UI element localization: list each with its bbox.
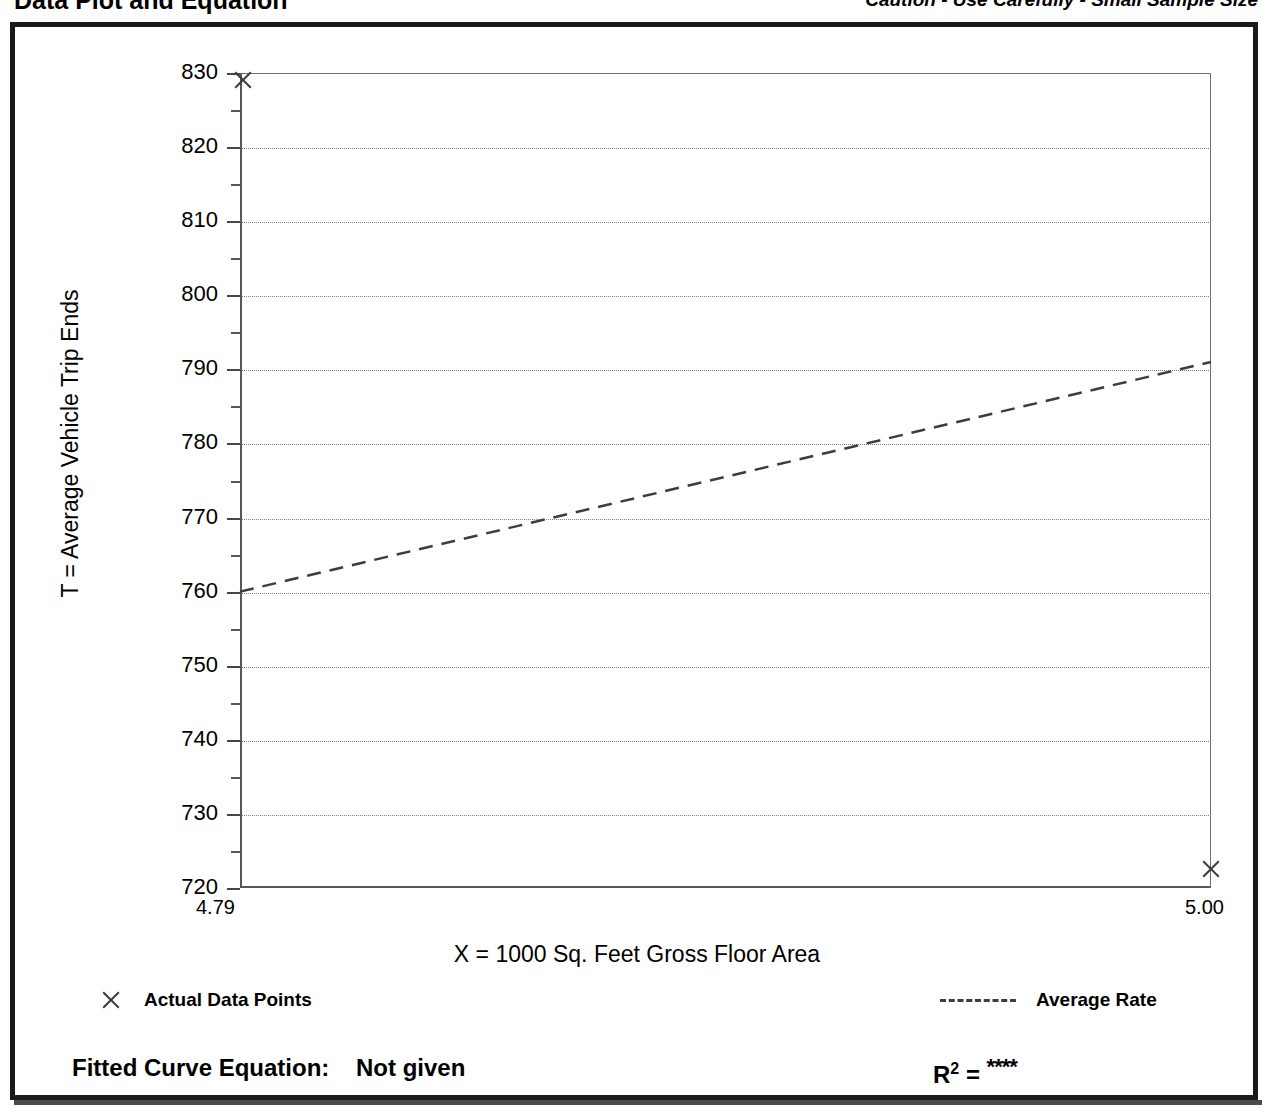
fitted-curve-label: Fitted Curve Equation: — [72, 1054, 329, 1081]
gridline — [242, 593, 1211, 594]
y-tick-label: 740 — [138, 728, 218, 750]
equation-row: Fitted Curve Equation: Not given R2 = **… — [0, 1054, 1274, 1094]
y-tick-label: 820 — [138, 135, 218, 157]
y-tick-major — [227, 221, 240, 223]
y-tick-label: 780 — [138, 431, 218, 453]
y-tick-minor — [231, 851, 240, 853]
y-tick-minor — [231, 629, 240, 631]
y-tick-major — [227, 443, 240, 445]
gridline — [242, 741, 1211, 742]
x-tick-label-max: 5.00 — [1185, 896, 1224, 919]
page-header: Data Plot and Equation Caution - Use Car… — [0, 0, 1274, 22]
plot-area — [240, 73, 1211, 888]
legend-label-average-rate: Average Rate — [1036, 989, 1157, 1011]
y-tick-major — [227, 295, 240, 297]
y-tick-minor — [231, 332, 240, 334]
r-squared-symbol: R — [933, 1061, 950, 1088]
frame-shadow — [14, 1100, 1262, 1105]
y-tick-label: 720 — [138, 876, 218, 898]
gridline — [242, 444, 1211, 445]
r-squared-stars: **** — [987, 1054, 1017, 1079]
y-tick-major — [227, 740, 240, 742]
y-tick-major — [227, 814, 240, 816]
y-tick-label: 730 — [138, 802, 218, 824]
y-tick-major — [227, 666, 240, 668]
dashed-line-icon — [940, 999, 1016, 1002]
y-tick-label: 760 — [138, 580, 218, 602]
y-axis-title: T = Average Vehicle Trip Ends — [57, 174, 84, 714]
caution-note: Caution - Use Carefully - Small Sample S… — [865, 0, 1258, 11]
r-squared-exponent: 2 — [950, 1060, 959, 1077]
gridline — [242, 815, 1211, 816]
gridline — [242, 370, 1211, 371]
y-tick-minor — [231, 481, 240, 483]
legend-label-data-points: Actual Data Points — [144, 989, 312, 1011]
y-tick-minor — [231, 110, 240, 112]
fitted-curve-value: Not given — [356, 1054, 465, 1081]
y-tick-major — [227, 73, 240, 75]
gridline — [242, 667, 1211, 668]
y-tick-label: 800 — [138, 283, 218, 305]
y-tick-label: 770 — [138, 506, 218, 528]
x-axis-title: X = 1000 Sq. Feet Gross Floor Area — [0, 941, 1274, 968]
y-tick-major — [227, 592, 240, 594]
gridline — [242, 519, 1211, 520]
y-tick-major — [227, 147, 240, 149]
y-tick-minor — [231, 555, 240, 557]
gridline — [242, 222, 1211, 223]
legend: Actual Data Points Average Rate — [0, 989, 1274, 1023]
r-squared-value: R2 = **** — [933, 1054, 1017, 1089]
y-tick-label: 750 — [138, 654, 218, 676]
y-tick-minor — [231, 184, 240, 186]
x-tick-label-min: 4.79 — [196, 896, 235, 919]
y-tick-minor — [231, 703, 240, 705]
gridline — [242, 296, 1211, 297]
y-tick-major — [227, 888, 240, 890]
r-squared-equals: = — [959, 1061, 986, 1088]
page-title: Data Plot and Equation — [14, 0, 288, 15]
y-tick-label: 830 — [138, 61, 218, 83]
legend-item-average-rate: Average Rate — [940, 989, 1157, 1011]
y-tick-label: 790 — [138, 357, 218, 379]
gridline — [242, 148, 1211, 149]
fitted-curve-equation: Fitted Curve Equation: Not given — [72, 1054, 465, 1082]
y-tick-major — [227, 518, 240, 520]
legend-item-data-points: Actual Data Points — [100, 989, 312, 1011]
y-tick-major — [227, 369, 240, 371]
y-tick-minor — [231, 777, 240, 779]
y-tick-minor — [231, 258, 240, 260]
y-tick-label: 810 — [138, 209, 218, 231]
x-marker-icon — [100, 989, 122, 1011]
y-tick-minor — [231, 406, 240, 408]
